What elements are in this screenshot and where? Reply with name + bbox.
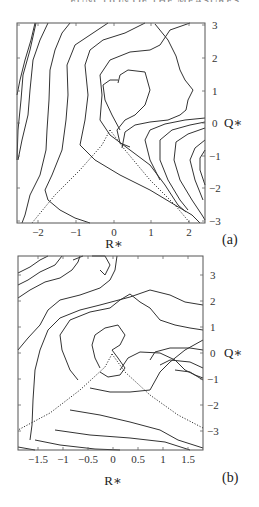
x-tick-label: −1.5 xyxy=(28,453,48,465)
y-tick-label: 1 xyxy=(210,321,216,333)
contour-line xyxy=(150,348,203,360)
x-tick-label: 1 xyxy=(160,453,166,465)
contour-panel-b: 3210−1−2−3−1.5−1−0.500.511.5R∗Q∗(b) xyxy=(0,250,259,507)
contour-line xyxy=(73,256,83,260)
contour-line xyxy=(18,256,117,350)
contour-line xyxy=(200,150,205,185)
y-tick-label: 2 xyxy=(210,295,216,307)
contour-plot-b: 3210−1−2−3−1.5−1−0.500.511.5R∗Q∗(b) xyxy=(0,250,259,507)
x-axis-label: R∗ xyxy=(104,473,122,488)
contour-panel-a: 3210−1−2−3−2−1012R∗Q∗(a) xyxy=(0,0,259,250)
plot-frame xyxy=(18,256,203,450)
y-tick-label: 0 xyxy=(212,117,218,129)
x-tick-label: −1 xyxy=(70,226,82,238)
y-axis-label: Q∗ xyxy=(224,345,242,360)
contour-line xyxy=(18,23,48,160)
contour-line xyxy=(30,290,203,440)
contour-line xyxy=(70,410,203,448)
x-axis-label: R∗ xyxy=(105,236,123,251)
x-tick-label: 2 xyxy=(186,226,192,238)
contour-plot-a: 3210−1−2−3−2−1012R∗Q∗(a) xyxy=(0,0,259,250)
y-tick-label: −1 xyxy=(209,150,221,162)
contour-line xyxy=(92,256,110,275)
contour-line xyxy=(18,256,80,298)
vieillefosse-line xyxy=(32,130,110,223)
plot-frame xyxy=(17,23,205,223)
plot-area xyxy=(17,23,205,223)
panel-label: (b) xyxy=(222,470,239,486)
contour-line xyxy=(122,24,193,148)
y-tick-label: 3 xyxy=(212,19,218,31)
y-tick-label: −2 xyxy=(209,182,221,194)
x-tick-label: 0 xyxy=(110,453,116,465)
contour-line xyxy=(175,370,203,380)
panel-label: (a) xyxy=(222,232,238,248)
x-tick-label: 1.5 xyxy=(181,453,195,465)
contour-line xyxy=(17,23,36,160)
y-tick-label: 1 xyxy=(212,85,218,97)
vieillefosse-line xyxy=(112,354,203,428)
contour-line xyxy=(120,352,203,378)
contour-line xyxy=(17,23,35,95)
y-tick-label: 2 xyxy=(212,52,218,64)
x-tick-label: −0.5 xyxy=(78,453,98,465)
y-tick-label: −2 xyxy=(207,399,219,411)
contour-line xyxy=(190,140,205,200)
contour-line xyxy=(80,23,200,223)
y-tick-label: 3 xyxy=(210,269,216,281)
x-tick-label: −1 xyxy=(57,453,69,465)
y-tick-label: 0 xyxy=(210,347,216,359)
x-tick-label: −2 xyxy=(32,226,44,238)
plot-area xyxy=(18,256,203,450)
y-axis-label: Q∗ xyxy=(224,115,242,130)
contour-line xyxy=(103,80,120,130)
y-tick-label: −1 xyxy=(207,373,219,385)
contour-line xyxy=(117,70,150,147)
y-tick-label: −3 xyxy=(209,215,221,227)
y-tick-label: −3 xyxy=(207,425,219,437)
x-tick-label: 1 xyxy=(148,226,154,238)
contour-line xyxy=(35,440,120,450)
x-tick-label: 0.5 xyxy=(131,453,145,465)
